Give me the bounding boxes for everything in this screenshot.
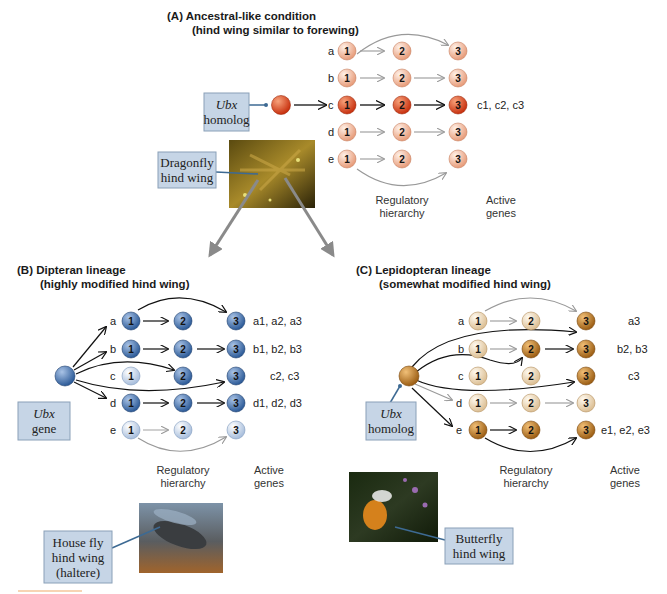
svg-text:2: 2 xyxy=(399,73,405,84)
svg-text:homolog: homolog xyxy=(368,421,415,436)
row-label-a: a xyxy=(458,315,465,327)
dragonfly-photo xyxy=(229,140,315,208)
svg-text:1: 1 xyxy=(344,154,350,165)
row-label-e: e xyxy=(328,153,334,165)
panel-b: (B) Dipteran lineage (highly modified hi… xyxy=(17,264,302,583)
svg-text:hierarchy: hierarchy xyxy=(503,477,549,489)
active-genes-b: b1, b2, b3 xyxy=(253,343,302,355)
svg-text:Ubx: Ubx xyxy=(33,406,55,421)
active-genes-a: a3 xyxy=(628,315,640,327)
svg-text:1: 1 xyxy=(128,371,134,382)
svg-text:2: 2 xyxy=(180,316,186,327)
svg-text:Active: Active xyxy=(254,464,284,476)
active-genes-c: c2, c3 xyxy=(270,370,299,382)
svg-text:House fly: House fly xyxy=(53,535,104,550)
svg-text:1: 1 xyxy=(475,398,481,409)
svg-text:genes: genes xyxy=(486,207,516,219)
svg-text:hind wing: hind wing xyxy=(453,546,506,561)
svg-text:3: 3 xyxy=(583,398,589,409)
svg-text:2: 2 xyxy=(180,371,186,382)
svg-text:3: 3 xyxy=(233,425,239,436)
row-label-a: a xyxy=(328,45,335,57)
svg-text:Regulatory: Regulatory xyxy=(375,194,429,206)
svg-text:1: 1 xyxy=(475,316,481,327)
svg-text:1: 1 xyxy=(475,425,481,436)
svg-text:2: 2 xyxy=(399,154,405,165)
svg-text:3: 3 xyxy=(455,127,461,138)
panel-c-subtitle: (somewhat modified hind wing) xyxy=(379,278,551,290)
svg-text:Regulatory: Regulatory xyxy=(499,464,553,476)
svg-text:gene: gene xyxy=(32,421,57,436)
ubx-node xyxy=(399,366,419,386)
svg-text:1: 1 xyxy=(344,100,350,111)
svg-text:3: 3 xyxy=(233,398,239,409)
active-genes-c: c3 xyxy=(628,370,640,382)
svg-text:2: 2 xyxy=(399,46,405,57)
row-label-e: e xyxy=(456,424,462,436)
svg-text:2: 2 xyxy=(528,371,534,382)
panel-c: (C) Lepidopteran lineage (somewhat modif… xyxy=(349,264,650,564)
gene-node: 1 2 3 1 2 3 1 2 3 1 2 3 1 2 3 xyxy=(338,42,467,168)
svg-text:1: 1 xyxy=(128,398,134,409)
svg-text:2: 2 xyxy=(180,398,186,409)
row-label-b: b xyxy=(458,343,464,355)
row-label-b: b xyxy=(328,72,334,84)
active-genes-a: c1, c2, c3 xyxy=(477,99,524,111)
svg-text:Butterfly: Butterfly xyxy=(456,531,503,546)
row-label-c: c xyxy=(328,99,334,111)
active-genes-a: a1, a2, a3 xyxy=(253,315,302,327)
svg-text:3: 3 xyxy=(455,100,461,111)
svg-text:2: 2 xyxy=(528,344,534,355)
svg-text:1: 1 xyxy=(128,344,134,355)
svg-text:2: 2 xyxy=(180,344,186,355)
panel-b-title: (B) Dipteran lineage xyxy=(17,264,126,276)
svg-text:hind wing: hind wing xyxy=(52,550,105,565)
svg-text:hind wing: hind wing xyxy=(161,170,214,185)
svg-text:hierarchy: hierarchy xyxy=(379,207,425,219)
svg-text:2: 2 xyxy=(399,127,405,138)
svg-text:2: 2 xyxy=(180,425,186,436)
active-genes-b: b2, b3 xyxy=(617,343,648,355)
row-label-d: d xyxy=(328,126,334,138)
gene-node: 1 2 3 1 2 3 1 2 3 1 2 3 1 2 3 xyxy=(469,312,595,439)
svg-text:Active: Active xyxy=(486,194,516,206)
svg-text:3: 3 xyxy=(233,316,239,327)
svg-text:2: 2 xyxy=(528,316,534,327)
row-label-a: a xyxy=(110,315,117,327)
active-genes-e: e1, e2, e3 xyxy=(601,424,650,436)
row-label-c: c xyxy=(458,370,464,382)
row-label-d: d xyxy=(110,397,116,409)
gene-node: 1 2 3 1 2 3 1 2 3 1 2 3 1 2 3 xyxy=(122,312,245,439)
panel-b-subtitle: (highly modified hind wing) xyxy=(40,278,190,290)
svg-text:1: 1 xyxy=(128,316,134,327)
svg-text:Regulatory: Regulatory xyxy=(156,464,210,476)
svg-text:genes: genes xyxy=(254,477,284,489)
svg-text:3: 3 xyxy=(233,371,239,382)
svg-text:1: 1 xyxy=(128,425,134,436)
active-genes-d: d1, d2, d3 xyxy=(253,397,302,409)
svg-text:3: 3 xyxy=(455,154,461,165)
svg-text:1: 1 xyxy=(475,371,481,382)
svg-text:hierarchy: hierarchy xyxy=(160,477,206,489)
svg-text:2: 2 xyxy=(528,425,534,436)
svg-text:(haltere): (haltere) xyxy=(56,565,100,580)
ubx-node xyxy=(55,366,75,386)
panel-a-title: (A) Ancestral-like condition xyxy=(167,10,316,22)
row-label-c: c xyxy=(110,370,116,382)
svg-text:1: 1 xyxy=(344,73,350,84)
row-label-b: b xyxy=(110,343,116,355)
panel-c-title: (C) Lepidopteran lineage xyxy=(356,264,491,276)
svg-text:3: 3 xyxy=(583,344,589,355)
row-label-d: d xyxy=(456,397,462,409)
svg-text:3: 3 xyxy=(455,73,461,84)
svg-text:homolog: homolog xyxy=(203,112,250,127)
svg-text:2: 2 xyxy=(399,100,405,111)
svg-text:1: 1 xyxy=(344,127,350,138)
gene-regulation-diagram: (A) Ancestral-like condition (hind wing … xyxy=(0,0,667,594)
svg-text:3: 3 xyxy=(583,371,589,382)
svg-text:3: 3 xyxy=(455,46,461,57)
svg-text:1: 1 xyxy=(475,344,481,355)
row-label-e: e xyxy=(110,424,116,436)
svg-text:Dragonfly: Dragonfly xyxy=(160,155,214,170)
svg-text:3: 3 xyxy=(583,316,589,327)
